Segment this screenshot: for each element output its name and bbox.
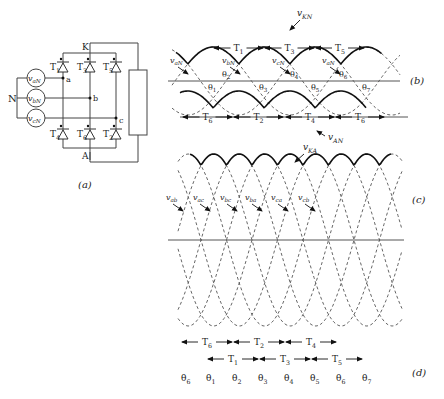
caption-c: (c) (412, 194, 426, 205)
theta-tick-label: θ1 (206, 373, 215, 385)
top-interval-label: T3 (285, 43, 295, 55)
phase-pointer (280, 67, 290, 74)
panel-d-timing: T6T2T4T1T3T5θ6θ1θ2θ3θ4θ5θ6θ7 (d) (181, 337, 426, 385)
thyristor-label: T3 (77, 62, 87, 74)
thyristor-label: T5 (103, 62, 113, 74)
vkn-pointer (290, 20, 300, 30)
line-voltage-pointer (305, 204, 315, 211)
thyristor-label: T2 (103, 129, 113, 141)
line-voltage-label: vca (271, 193, 282, 203)
timing-label-row2: T3 (280, 354, 290, 366)
node-c-label: c (119, 116, 124, 125)
theta-tick-label: θ6 (336, 373, 345, 385)
van-pointer (317, 131, 325, 136)
theta-label: θ7 (362, 83, 371, 93)
line-voltage-label: vab (166, 193, 178, 203)
panel-b-waveforms: T1T3T5T6T2T4T6vKNvANvaNvbNvcNvaNθ2θ4θ6θ1… (168, 8, 424, 144)
theta-tick-label: θ5 (310, 373, 319, 385)
theta-tick-label: θ7 (362, 373, 371, 385)
thyristor-label: T6 (77, 129, 87, 141)
line-voltage-label: vac (193, 193, 205, 203)
load-resistor (129, 70, 147, 135)
theta-label: θ5 (311, 83, 320, 93)
neutral-label: N (8, 93, 17, 104)
timing-label-row1: T2 (254, 337, 264, 349)
timing-label-row2: T5 (332, 354, 342, 366)
rectifier-figure: N vaNvbNvcN a b c K A T1T3T5T4T6T2 (a) T… (0, 0, 444, 399)
phase-label: vaN (322, 56, 336, 66)
line-voltage-pointer (173, 204, 183, 211)
top-interval-label: T1 (234, 43, 244, 55)
line-voltage-label: vcb (298, 193, 310, 203)
node-b-label: b (93, 94, 98, 103)
bottom-interval-label: T2 (254, 112, 264, 124)
node-a-label: a (66, 75, 71, 84)
thyristor-label: T1 (50, 62, 60, 74)
vka-envelope (190, 154, 391, 165)
theta-tick-label: θ3 (258, 373, 267, 385)
neutral-bus (17, 78, 27, 118)
bottom-interval-label: T6 (355, 112, 365, 124)
theta-tick-label: θ4 (284, 373, 293, 385)
line-voltage-pointer (252, 204, 262, 211)
phase-pointer (178, 67, 188, 74)
line-voltage-label: vba (245, 193, 256, 203)
bottom-interval-label: T6 (203, 112, 213, 124)
line-voltage-pointer (278, 204, 288, 211)
theta-label: θ1 (208, 83, 216, 93)
van-label: vAN (328, 132, 344, 144)
caption-d: (d) (412, 367, 426, 378)
vka-label: vKA (303, 142, 318, 154)
vkn-label: vKN (297, 8, 313, 20)
timing-label-row1: T6 (202, 337, 212, 349)
line-voltage-pointer (200, 204, 210, 211)
timing-label-row2: T1 (228, 354, 238, 366)
theta-label: θ3 (259, 83, 268, 93)
node-a-anode-label: A (81, 151, 89, 161)
theta-label: θ4 (290, 70, 299, 80)
panel-c-waveforms: vKAvabvacvbcvbavcavcb (c) (166, 142, 426, 326)
phase-wires (45, 78, 116, 118)
node-k-label: K (82, 42, 89, 52)
caption-b: (b) (410, 75, 424, 86)
timing-label-row1: T4 (306, 337, 316, 349)
theta-tick-label: θ2 (232, 373, 241, 385)
circuit-diagram: N vaNvbNvcN a b c K A T1T3T5T4T6T2 (a) (8, 42, 147, 190)
van-envelope (180, 91, 366, 108)
theta-label: θ2 (222, 70, 231, 80)
line-voltage-label: vbc (220, 193, 232, 203)
thyristor-label: T4 (50, 129, 60, 141)
top-interval-label: T5 (335, 43, 345, 55)
bottom-interval-label: T4 (305, 112, 315, 124)
theta-tick-label: θ6 (181, 373, 190, 385)
caption-a: (a) (78, 179, 92, 190)
phase-pointer (230, 67, 240, 74)
